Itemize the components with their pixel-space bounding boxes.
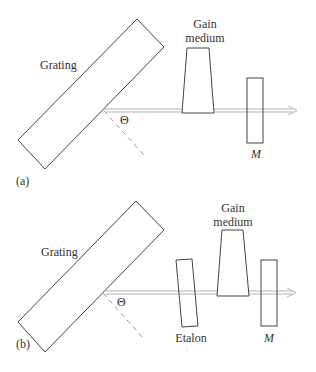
mirror-b bbox=[261, 260, 277, 326]
gain-medium-a bbox=[182, 48, 214, 113]
etalon-b bbox=[176, 259, 198, 327]
mirror-label-b: M bbox=[264, 332, 274, 345]
arrowhead-a bbox=[288, 106, 297, 115]
grating-label-b: Grating bbox=[41, 246, 78, 259]
grating-label-a: Grating bbox=[40, 59, 77, 72]
arrowhead-b bbox=[287, 288, 296, 297]
gain-label-line2-a: medium bbox=[185, 32, 224, 45]
gain-label-line2-b: medium bbox=[213, 216, 252, 229]
etalon-label-b: Etalon bbox=[175, 332, 206, 345]
gain-label-line1-a: Gain bbox=[193, 18, 216, 31]
panel-tag-a: (a) bbox=[16, 175, 29, 188]
angle-label-b: Θ bbox=[117, 296, 126, 309]
angle-label-a: Θ bbox=[120, 114, 129, 127]
grating-a bbox=[18, 19, 164, 169]
panel-b bbox=[18, 201, 296, 352]
gain-label-line1-b: Gain bbox=[221, 202, 244, 215]
laser-cavity-diagram bbox=[0, 0, 316, 372]
mirror-a bbox=[247, 78, 263, 143]
grating-b bbox=[18, 201, 164, 352]
panel-tag-b: (b) bbox=[16, 338, 30, 351]
mirror-label-a: M bbox=[251, 148, 261, 161]
gain-medium-b bbox=[217, 230, 249, 296]
